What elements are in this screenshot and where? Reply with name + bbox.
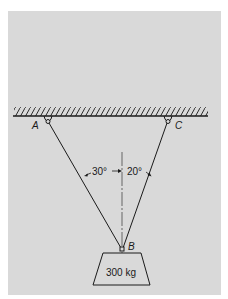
junction-b xyxy=(120,247,124,251)
angle-label-left: 30° xyxy=(92,166,107,177)
label-c: C xyxy=(175,120,183,131)
label-a: A xyxy=(31,120,39,131)
load-label: 300 kg xyxy=(106,267,136,278)
label-b: B xyxy=(128,241,135,252)
support-bracket-a xyxy=(44,116,52,124)
ceiling xyxy=(13,107,208,116)
angle-label-right: 20° xyxy=(127,166,142,177)
support-bracket-c xyxy=(164,116,172,124)
cable-cb xyxy=(123,123,167,248)
cable-ab xyxy=(49,123,121,248)
cable-diagram: A C B 30° 20° 300 kg xyxy=(0,0,228,299)
